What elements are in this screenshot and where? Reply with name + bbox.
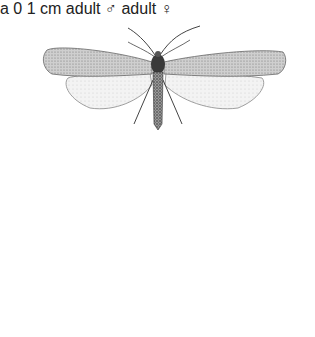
moth-illustration (0, 0, 315, 337)
male-moth (43, 26, 285, 130)
